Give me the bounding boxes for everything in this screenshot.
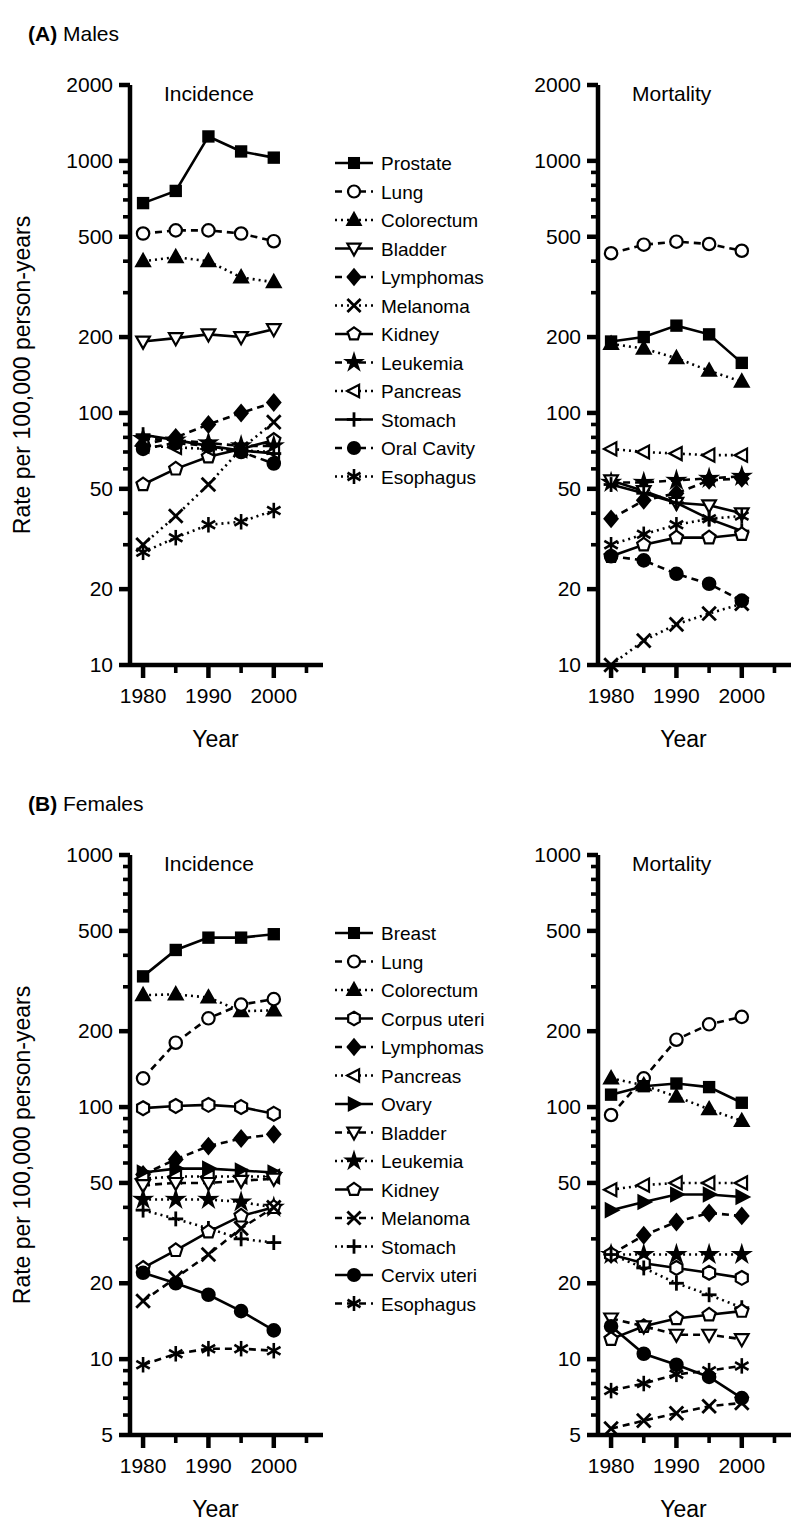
legend-item-stomach[interactable]: Stomach	[335, 410, 456, 431]
legend-item-cervix-uteri[interactable]: Cervix uteri	[335, 1265, 477, 1286]
data-point-asterisk	[735, 1358, 748, 1374]
legend-item-kidney[interactable]: Kidney	[335, 324, 440, 345]
legend-item-ovary[interactable]: Ovary	[335, 1094, 432, 1115]
legend-label: Oral Cavity	[381, 438, 475, 459]
data-point-pentagon	[169, 1243, 182, 1256]
x-tick-label: 1980	[120, 684, 167, 707]
data-point-plus	[669, 1276, 684, 1291]
legend-item-lymphomas[interactable]: Lymphomas	[335, 267, 484, 288]
data-point-triangle	[735, 375, 749, 387]
data-point-pentagon	[670, 1312, 683, 1325]
data-point-asterisk	[202, 517, 215, 533]
legend-item-prostate[interactable]: Prostate	[335, 153, 452, 174]
legend-item-colorectum[interactable]: Colorectum	[335, 210, 478, 231]
x-tick-label: 2000	[718, 684, 765, 707]
data-point-ltriangle	[702, 449, 714, 462]
data-point-x	[202, 1248, 216, 1262]
data-point-star	[347, 1153, 362, 1167]
legend-item-stomach[interactable]: Stomach	[335, 1237, 456, 1258]
x-tick-label: 2000	[250, 1454, 297, 1477]
data-point-diamond	[202, 417, 215, 433]
legend-item-corpus-uteri[interactable]: Corpus uteri	[335, 1009, 485, 1030]
y-tick-label: 5	[101, 1423, 113, 1446]
legend-item-lymphomas[interactable]: Lymphomas	[335, 1037, 484, 1058]
x-axis-title: Year	[660, 1496, 707, 1522]
data-point-triangle	[169, 250, 183, 262]
legend-item-bladder[interactable]: Bladder	[335, 239, 447, 260]
legend-item-esophagus[interactable]: Esophagus	[335, 1294, 476, 1315]
legend-label: Lymphomas	[381, 1037, 484, 1058]
data-point-circle	[670, 568, 682, 580]
legend-item-pancreas[interactable]: Pancreas	[335, 1066, 461, 1087]
legend-label: Leukemia	[381, 1151, 464, 1172]
y-tick-label: 200	[78, 325, 113, 348]
y-tick-label: 5	[569, 1423, 581, 1446]
x-tick-label: 1990	[185, 1454, 232, 1477]
x-tick-label: 1980	[588, 684, 635, 707]
data-point-pentagon	[136, 478, 149, 491]
data-point-asterisk	[136, 1357, 149, 1373]
legend-label: Bladder	[381, 1123, 447, 1144]
y-tick-label: 500	[546, 225, 581, 248]
y-tick-label: 1000	[534, 149, 581, 172]
legend-item-melanoma[interactable]: Melanoma	[335, 296, 470, 317]
legend-item-breast[interactable]: Breast	[335, 923, 437, 944]
legend-label: Melanoma	[381, 1208, 470, 1229]
series-ovary	[606, 1188, 749, 1217]
data-point-circle	[638, 239, 650, 251]
panel-b-females: (B) Females Incidence5102050100200500100…	[0, 770, 803, 1540]
data-point-diamond	[235, 405, 248, 421]
legend-item-lung[interactable]: Lung	[335, 952, 423, 973]
y-tick-label: 500	[78, 919, 113, 942]
legend-item-kidney[interactable]: Kidney	[335, 1180, 440, 1201]
y-tick-label: 200	[546, 325, 581, 348]
legend-item-bladder[interactable]: Bladder	[335, 1123, 447, 1144]
chart-subtitle: Mortality	[632, 82, 712, 105]
legend-label: Lung	[381, 952, 423, 973]
series-line	[611, 604, 742, 665]
x-tick-label: 1990	[653, 1454, 700, 1477]
legend-label: Ovary	[381, 1094, 432, 1115]
data-point-circle	[170, 1277, 182, 1289]
y-tick-label: 50	[90, 1171, 113, 1194]
data-point-circle	[235, 998, 247, 1010]
data-point-plus	[168, 1211, 183, 1226]
data-point-ltriangle	[637, 1179, 649, 1192]
data-point-star	[233, 1194, 248, 1209]
series-melanoma	[604, 597, 748, 672]
x-tick-label: 1980	[588, 1454, 635, 1477]
legend-item-pancreas[interactable]: Pancreas	[335, 381, 461, 402]
y-tick-label: 10	[90, 653, 113, 676]
legend-item-colorectum[interactable]: Colorectum	[335, 980, 478, 1001]
legend-item-lung[interactable]: Lung	[335, 182, 423, 203]
series-kidney	[604, 527, 748, 562]
legend-label: Prostate	[381, 153, 452, 174]
data-point-square	[171, 186, 181, 196]
series-line	[611, 1403, 742, 1429]
legend-item-melanoma[interactable]: Melanoma	[335, 1208, 470, 1229]
legend-item-esophagus[interactable]: Esophagus	[335, 467, 476, 488]
legend-label: Colorectum	[381, 210, 478, 231]
data-point-hexagon	[736, 1271, 748, 1285]
data-point-triangle	[670, 1089, 684, 1101]
data-point-circle	[348, 956, 360, 968]
data-point-plus	[702, 511, 717, 526]
legend-item-leukemia[interactable]: Leukemia	[335, 353, 464, 374]
data-point-circle	[605, 1109, 617, 1121]
data-point-star	[347, 355, 362, 369]
legend-label: Pancreas	[381, 1066, 461, 1087]
data-point-triangle	[347, 213, 360, 225]
data-point-triangle	[267, 275, 281, 287]
data-point-diamond	[348, 270, 361, 285]
series-cervix-uteri	[137, 1267, 280, 1337]
data-point-circle	[268, 1324, 280, 1336]
legend-item-oral-cavity[interactable]: Oral Cavity	[335, 438, 475, 459]
data-point-circle	[605, 247, 617, 259]
legend-item-leukemia[interactable]: Leukemia	[335, 1151, 464, 1172]
data-point-plus	[266, 1235, 281, 1250]
data-point-circle	[268, 993, 280, 1005]
data-point-hexagon	[170, 1099, 182, 1113]
legend-label: Esophagus	[381, 1294, 476, 1315]
data-point-diamond	[202, 1138, 215, 1154]
series-oral-cavity	[605, 550, 748, 607]
